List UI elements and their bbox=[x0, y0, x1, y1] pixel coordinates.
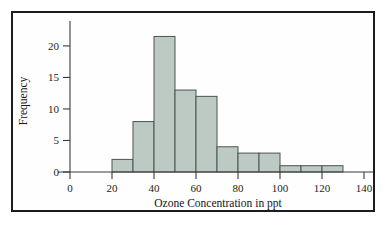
figure-frame: 020406080100120140 05101520 Ozone Concen… bbox=[11, 11, 375, 212]
bars-group bbox=[112, 36, 343, 172]
x-tick-label: 20 bbox=[107, 182, 119, 194]
histogram-bar bbox=[238, 153, 259, 172]
x-tick-label: 140 bbox=[356, 182, 373, 194]
y-tick-label: 15 bbox=[48, 71, 60, 83]
histogram-bar bbox=[280, 166, 301, 172]
histogram-bar bbox=[322, 166, 343, 172]
histogram-bar bbox=[259, 153, 280, 172]
x-tick-label: 60 bbox=[191, 182, 203, 194]
y-tick-labels: 05101520 bbox=[48, 40, 60, 178]
x-axis-title: Ozone Concentration in ppt bbox=[154, 197, 282, 210]
histogram-bar bbox=[301, 166, 322, 172]
y-axis-title: Frequency bbox=[17, 76, 30, 125]
x-tick-label: 80 bbox=[233, 182, 245, 194]
chart-svg: 020406080100120140 05101520 Ozone Concen… bbox=[13, 13, 377, 214]
histogram-bar bbox=[175, 90, 196, 172]
x-tick-label: 120 bbox=[314, 182, 331, 194]
x-tick-label: 40 bbox=[149, 182, 161, 194]
histogram-chart: 020406080100120140 05101520 Ozone Concen… bbox=[13, 13, 377, 214]
y-tick-label: 20 bbox=[48, 40, 60, 52]
y-tick-label: 0 bbox=[54, 166, 60, 178]
histogram-bar bbox=[154, 36, 175, 172]
histogram-bar bbox=[112, 159, 133, 172]
y-tick-label: 10 bbox=[48, 103, 60, 115]
x-tick-label: 0 bbox=[67, 182, 73, 194]
x-tick-label: 100 bbox=[272, 182, 289, 194]
histogram-bar bbox=[196, 96, 217, 172]
histogram-bar bbox=[217, 147, 238, 172]
histogram-bar bbox=[133, 122, 154, 172]
y-tick-label: 5 bbox=[54, 134, 60, 146]
x-tick-labels: 020406080100120140 bbox=[67, 182, 373, 194]
